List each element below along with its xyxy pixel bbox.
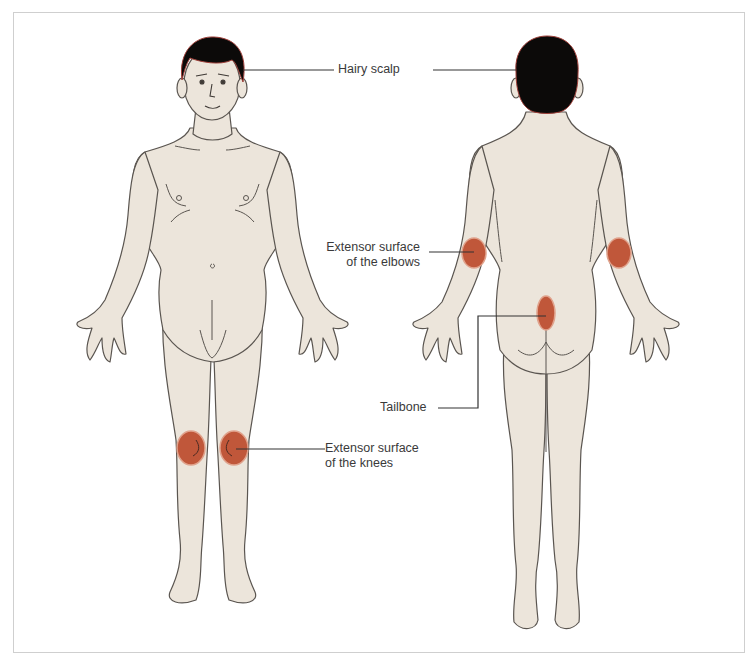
label-knees: Extensor surface of the knees xyxy=(325,441,419,471)
lesion-right-knee xyxy=(220,431,248,465)
body-illustration xyxy=(0,0,750,664)
label-hairy-scalp: Hairy scalp xyxy=(338,62,400,77)
label-tailbone: Tailbone xyxy=(380,400,427,415)
label-elbows-line2: of the elbows xyxy=(316,255,420,270)
lesion-left-knee xyxy=(177,431,205,465)
label-knees-line2: of the knees xyxy=(325,456,419,471)
lesion-left-elbow xyxy=(462,238,486,268)
label-elbows: Extensor surface of the elbows xyxy=(316,240,420,270)
lesion-tailbone xyxy=(537,296,555,330)
back-hair xyxy=(516,36,578,114)
label-knees-line1: Extensor surface xyxy=(325,441,419,455)
label-elbows-line1: Extensor surface xyxy=(326,240,420,254)
lesion-right-elbow xyxy=(607,238,631,268)
